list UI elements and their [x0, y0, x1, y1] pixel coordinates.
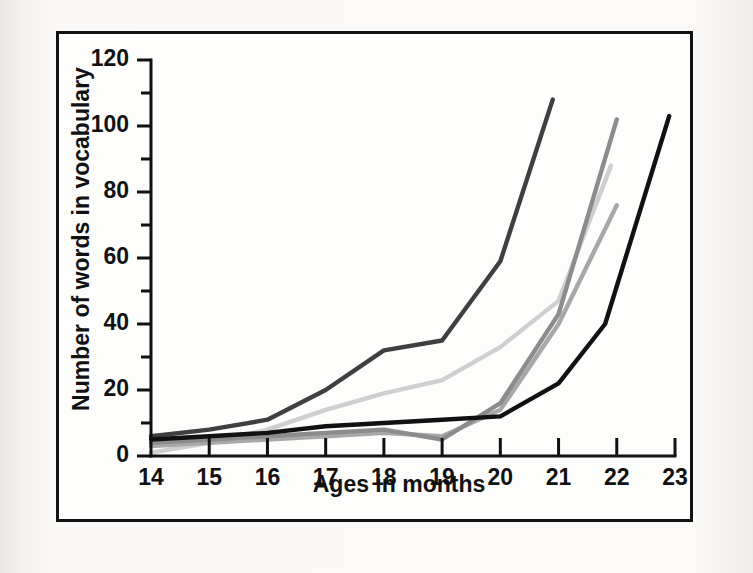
- x-tick-label: 16: [255, 464, 281, 490]
- x-tick-label: 14: [138, 464, 164, 490]
- series-line: [151, 116, 669, 439]
- x-tick-label: 23: [662, 464, 688, 490]
- y-tick-label: 40: [103, 309, 129, 335]
- line-chart: 02040608010012014151617181920212223 Ages…: [59, 34, 690, 519]
- x-tick-label: 22: [604, 464, 630, 490]
- y-axis-title: Number of words in vocabulary: [68, 67, 94, 411]
- figure-frame: 02040608010012014151617181920212223 Ages…: [56, 31, 693, 522]
- axis-layer: [137, 60, 675, 456]
- series-line: [151, 205, 617, 446]
- y-tick-label: 20: [103, 375, 129, 401]
- x-tick-label: 15: [196, 464, 222, 490]
- plot-stage: 02040608010012014151617181920212223 Ages…: [59, 34, 690, 519]
- y-tick-label: 120: [91, 45, 129, 71]
- x-axis-title: Ages in months: [313, 471, 486, 497]
- x-tick-label: 21: [546, 464, 572, 490]
- y-tick-label: 60: [103, 243, 129, 269]
- series-layer: [151, 100, 669, 453]
- y-tick-label: 100: [91, 111, 129, 137]
- y-tick-label: 80: [103, 177, 129, 203]
- y-tick-label: 0: [116, 441, 129, 467]
- x-tick-label: 20: [488, 464, 514, 490]
- series-line: [151, 100, 553, 437]
- series-line: [151, 166, 611, 453]
